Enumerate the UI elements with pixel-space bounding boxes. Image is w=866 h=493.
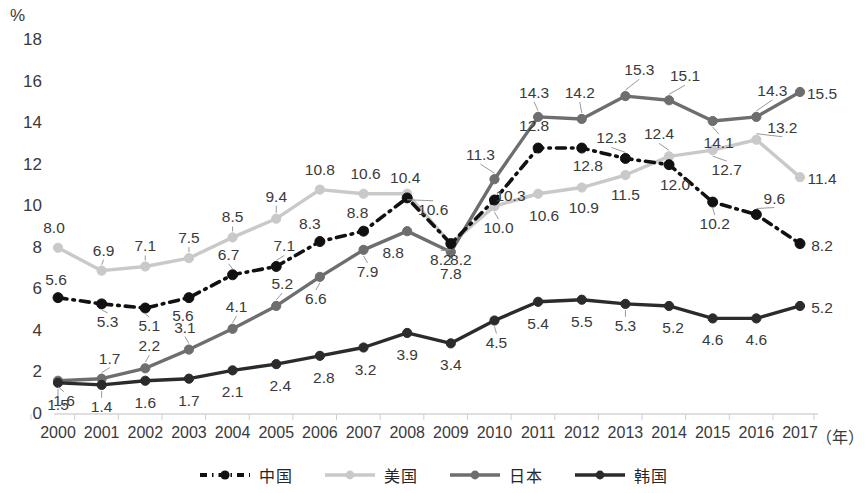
series-marker xyxy=(533,143,543,153)
data-label: 5.3 xyxy=(615,317,637,335)
series-marker xyxy=(795,301,804,310)
data-label: 1.4 xyxy=(91,398,113,416)
series-marker xyxy=(141,364,150,373)
data-label: 5.2 xyxy=(811,299,833,317)
y-axis-tick: 10 xyxy=(8,196,42,216)
series-marker xyxy=(140,303,150,313)
series-marker xyxy=(751,210,761,220)
data-label: 7.1 xyxy=(273,237,295,255)
series-marker xyxy=(752,135,761,144)
data-label: 4.6 xyxy=(746,331,768,349)
series-marker xyxy=(97,299,107,309)
series-中国 xyxy=(53,143,805,313)
data-label: 15.1 xyxy=(670,67,700,85)
data-label: 5.4 xyxy=(527,315,549,333)
label-leader-line xyxy=(580,102,582,113)
series-marker xyxy=(708,197,718,207)
series-marker xyxy=(708,116,717,125)
data-label: 12.3 xyxy=(596,129,626,147)
data-label: 10.2 xyxy=(700,215,730,233)
series-marker xyxy=(403,227,412,236)
legend-swatch-icon xyxy=(573,468,627,482)
y-axis-unit-label: % xyxy=(10,6,25,26)
label-leader-line xyxy=(669,85,685,94)
data-label: 6.6 xyxy=(305,290,327,308)
label-leader-line xyxy=(534,102,538,111)
series-marker xyxy=(228,366,237,375)
data-label: 1.7 xyxy=(99,350,121,368)
data-label: 5.2 xyxy=(662,319,684,337)
series-marker xyxy=(184,293,194,303)
y-axis-tick: 6 xyxy=(8,279,42,299)
data-label: 11.3 xyxy=(466,146,495,164)
data-label: 10.8 xyxy=(305,161,335,179)
series-line xyxy=(58,300,800,385)
label-leader-line xyxy=(233,316,237,323)
data-label: 8.8 xyxy=(382,244,404,262)
data-label: 4.6 xyxy=(702,331,724,349)
data-label: 9.4 xyxy=(265,188,287,206)
data-label: 2.8 xyxy=(313,369,335,387)
data-label: 2.2 xyxy=(139,337,161,355)
legend-item-中国[interactable]: 中国 xyxy=(198,463,293,487)
series-marker xyxy=(228,233,237,242)
series-marker xyxy=(228,270,238,280)
y-axis-tick: 18 xyxy=(8,30,42,50)
data-label: 8.0 xyxy=(43,219,65,237)
data-label: 4.5 xyxy=(486,334,508,352)
series-marker xyxy=(795,239,805,249)
series-marker xyxy=(577,183,586,192)
label-leader-line xyxy=(713,208,715,215)
data-label: 13.2 xyxy=(767,119,797,137)
series-marker xyxy=(446,239,456,249)
data-label: 10.6 xyxy=(529,207,559,225)
data-label: 8.5 xyxy=(222,208,244,226)
series-marker xyxy=(795,173,804,182)
label-leader-line xyxy=(494,327,496,334)
data-label: 10.6 xyxy=(350,165,380,183)
data-label: 3.1 xyxy=(174,319,196,337)
data-label: 12.0 xyxy=(660,176,690,194)
series-marker xyxy=(53,293,63,303)
series-marker xyxy=(577,295,586,304)
series-marker xyxy=(97,380,106,389)
data-label: 8.2 xyxy=(811,237,833,255)
legend-item-美国[interactable]: 美国 xyxy=(323,463,418,487)
data-label: 1.6 xyxy=(135,394,157,412)
label-leader-line xyxy=(185,337,189,344)
y-axis-tick: 4 xyxy=(8,321,42,341)
label-leader-line xyxy=(276,293,282,300)
label-leader-line xyxy=(102,368,110,373)
legend-item-日本[interactable]: 日本 xyxy=(448,463,543,487)
data-label: 5.1 xyxy=(139,317,161,335)
legend-swatch-icon xyxy=(448,468,502,482)
label-leader-line xyxy=(494,212,498,219)
series-line xyxy=(58,148,800,308)
series-marker xyxy=(577,143,587,153)
data-label: 2.1 xyxy=(222,383,244,401)
series-marker xyxy=(359,343,368,352)
data-label: 4.1 xyxy=(226,298,248,316)
data-label: 7.9 xyxy=(357,263,379,281)
y-axis-tick: 2 xyxy=(8,362,42,382)
series-marker xyxy=(272,214,281,223)
series-marker xyxy=(315,237,325,247)
label-leader-line xyxy=(316,283,320,290)
data-label: 7.8 xyxy=(440,265,462,283)
data-label: 14.3 xyxy=(519,84,549,102)
y-axis-tick: 14 xyxy=(8,113,42,133)
chart-container: % 024681012141618 2000200120022003200420… xyxy=(0,0,866,493)
label-leader-line xyxy=(145,355,149,362)
legend-item-韩国[interactable]: 韩国 xyxy=(573,463,668,487)
data-label: 15.5 xyxy=(807,85,837,103)
series-marker xyxy=(577,114,586,123)
data-label: 10.4 xyxy=(390,169,420,187)
series-marker xyxy=(359,245,368,254)
data-label: 3.2 xyxy=(355,361,377,379)
data-label: 12.4 xyxy=(644,125,674,143)
data-label: 3.4 xyxy=(440,356,462,374)
series-marker xyxy=(359,226,369,236)
data-label: 12.7 xyxy=(712,161,742,179)
series-marker xyxy=(228,324,237,333)
data-label: 1.7 xyxy=(178,392,200,410)
